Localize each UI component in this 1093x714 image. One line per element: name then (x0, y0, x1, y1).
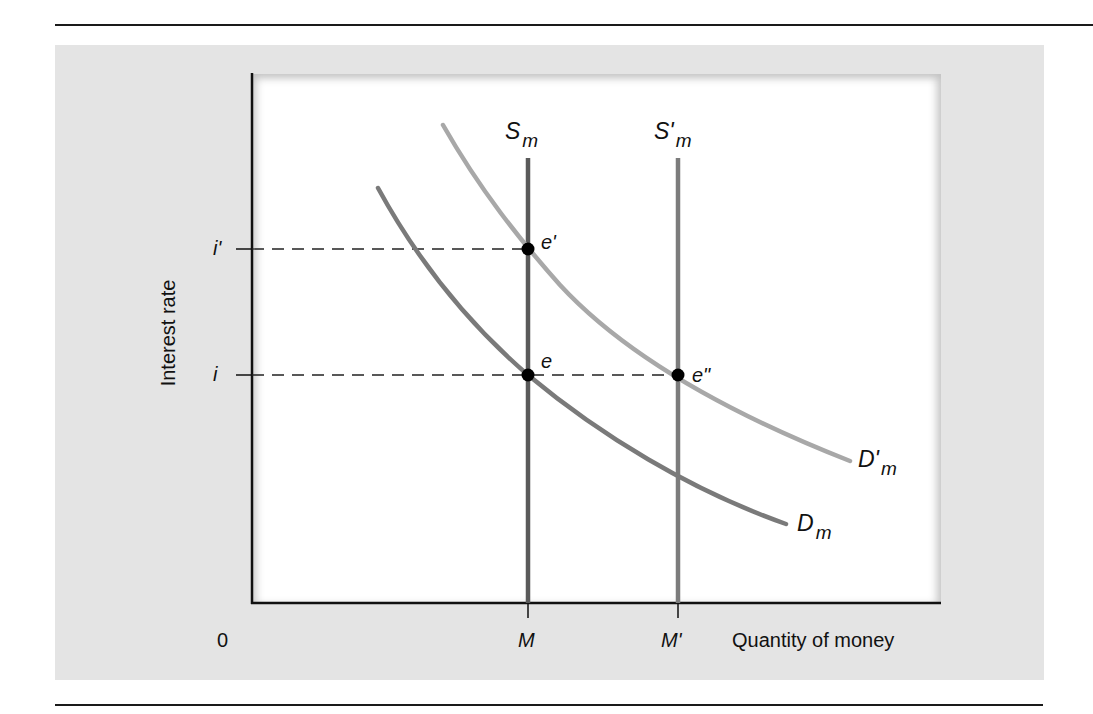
y-axis-title: Interest rate (157, 280, 180, 387)
x-tick-label-m-prime: M' (661, 630, 681, 650)
equilibrium-point-e-prime (522, 243, 535, 256)
x-axis-title: Quantity of money (732, 630, 894, 650)
label-sm-prime: S'm (654, 120, 692, 143)
demand-curve-dm (378, 188, 786, 524)
label-dm: Dm (797, 512, 831, 535)
origin-label: 0 (217, 630, 228, 650)
label-e-prime: e' (541, 232, 556, 252)
x-tick-label-m: M (518, 630, 535, 650)
equilibrium-point-e-dbl (672, 369, 685, 382)
label-dm-prime: D'm (858, 448, 897, 471)
label-sm: Sm (505, 120, 538, 143)
label-e-dbl: e" (692, 365, 710, 385)
bottom-rule (55, 704, 1043, 706)
y-tick-label-i: i (213, 364, 217, 384)
label-e: e (541, 351, 552, 371)
y-tick-label-i-prime: i' (213, 238, 221, 258)
equilibrium-point-e (522, 369, 535, 382)
demand-curve-dm-prime (443, 125, 850, 461)
